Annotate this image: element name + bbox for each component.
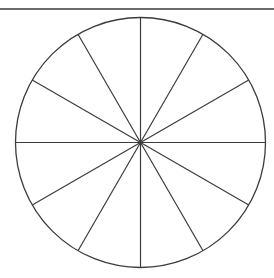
divided-circle <box>0 0 274 278</box>
circle-divisions <box>16 18 266 268</box>
